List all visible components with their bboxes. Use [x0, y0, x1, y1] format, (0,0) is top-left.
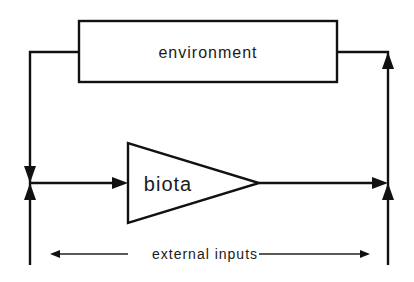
arrow-right-icon	[360, 250, 370, 258]
left-vertical-line	[30, 52, 79, 265]
arrow-down-icon	[24, 166, 36, 183]
arrow-up-icon	[382, 52, 394, 69]
right-feedback-path	[337, 52, 394, 265]
arrow-up-icon	[24, 183, 36, 200]
arrow-left-icon	[50, 250, 60, 258]
feedback-diagram: environment biota external inputs	[0, 0, 414, 282]
arrow-up-icon	[382, 183, 394, 200]
environment-label: environment	[158, 44, 257, 61]
external-inputs-label: external inputs	[152, 246, 258, 262]
right-vertical-line	[337, 52, 388, 265]
junction-to-biota	[30, 177, 128, 189]
biota-label: biota	[144, 173, 192, 195]
environment-node: environment	[79, 21, 337, 82]
arrow-right-icon	[112, 177, 128, 189]
biota-node: biota	[128, 143, 259, 223]
biota-output-path	[259, 177, 388, 189]
arrow-right-icon	[372, 177, 388, 189]
external-inputs-annotation: external inputs	[50, 246, 370, 262]
left-feedback-path	[24, 52, 79, 265]
